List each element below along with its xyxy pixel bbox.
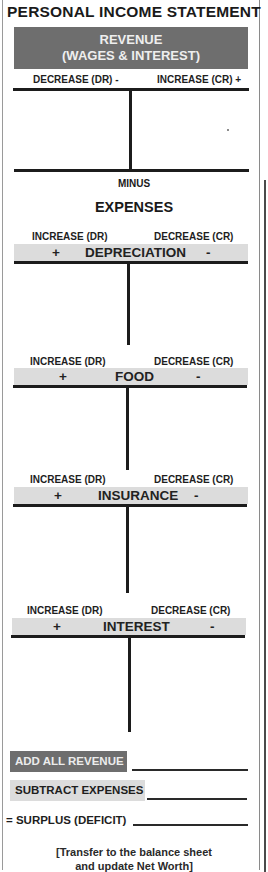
insurance-header-bar: + INSURANCE - (14, 487, 248, 504)
food-header-bar: + FOOD - (14, 368, 248, 385)
food-minus-sign: - (196, 368, 201, 385)
insurance-plus-sign: + (54, 487, 62, 504)
add-all-revenue-label: ADD ALL REVENUE (10, 751, 127, 772)
depreciation-right-label: DECREASE (CR) (154, 231, 233, 242)
food-right-label: DECREASE (CR) (154, 356, 233, 367)
revenue-t-account-divider[interactable] (129, 88, 132, 170)
food-account-name: FOOD (115, 368, 154, 385)
interest-t-account-divider[interactable] (128, 635, 131, 732)
surplus-deficit-label: = SURPLUS (DEFICIT) (6, 814, 126, 826)
revenue-header-line1: REVENUE (14, 32, 248, 48)
subtract-expenses-blank[interactable] (147, 798, 247, 800)
transfer-note-line2: and update Net Worth] (0, 859, 268, 872)
transfer-note-line1: [Transfer to the balance sheet (0, 845, 268, 859)
depreciation-minus-sign: - (206, 244, 211, 261)
revenue-right-label: INCREASE (CR) + (157, 74, 241, 85)
revenue-left-label: DECREASE (DR) - (33, 74, 119, 85)
transfer-note: [Transfer to the balance sheet and updat… (0, 845, 268, 872)
interest-right-label: DECREASE (CR) (151, 605, 230, 616)
insurance-left-label: INCREASE (DR) (30, 474, 106, 485)
revenue-header: REVENUE (WAGES & INTEREST) (14, 27, 248, 69)
food-t-account-divider[interactable] (126, 385, 129, 470)
insurance-right-label: DECREASE (CR) (154, 474, 233, 485)
insurance-t-account-divider[interactable] (126, 504, 129, 593)
food-plus-sign: + (59, 368, 67, 385)
expenses-heading: EXPENSES (0, 199, 268, 215)
speck (227, 129, 229, 131)
revenue-t-account-bottom (14, 169, 249, 172)
interest-left-label: INCREASE (DR) (27, 605, 103, 616)
interest-account-name: INTEREST (103, 618, 170, 635)
depreciation-account-name: DEPRECIATION (85, 244, 186, 261)
minus-label: MINUS (0, 178, 268, 189)
insurance-minus-sign: - (194, 487, 199, 504)
food-left-label: INCREASE (DR) (30, 356, 106, 367)
page-edge-shadow (264, 180, 266, 872)
depreciation-t-account-top[interactable] (14, 261, 248, 264)
insurance-t-account-top[interactable] (13, 504, 247, 507)
surplus-deficit-blank[interactable] (133, 824, 248, 826)
page-title: PERSONAL INCOME STATEMENT (0, 3, 268, 21)
depreciation-header-bar: + DEPRECIATION - (14, 244, 248, 261)
food-t-account-top[interactable] (13, 385, 247, 388)
revenue-header-line2: (WAGES & INTEREST) (14, 48, 248, 64)
depreciation-t-account-divider[interactable] (127, 261, 130, 345)
interest-plus-sign: + (53, 618, 61, 635)
depreciation-plus-sign: + (52, 244, 60, 261)
interest-header-bar: + INTEREST - (12, 618, 246, 635)
interest-minus-sign: - (210, 618, 215, 635)
add-all-revenue-blank[interactable] (132, 769, 248, 771)
insurance-account-name: INSURANCE (98, 487, 178, 504)
subtract-expenses-label: SUBTRACT EXPENSES (10, 780, 145, 801)
depreciation-left-label: INCREASE (DR) (32, 231, 108, 242)
